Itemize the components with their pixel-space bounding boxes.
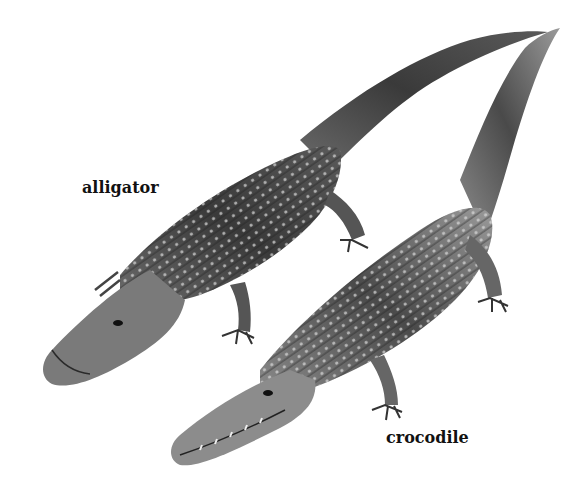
alligator-label: alligator	[82, 180, 159, 196]
alligator-head	[43, 270, 185, 386]
alligator-back-leg	[325, 190, 365, 240]
crocodile-front-leg	[370, 355, 398, 405]
crocodile-eye	[263, 390, 273, 396]
crocodile-label: crocodile	[386, 430, 469, 446]
alligator-front-leg	[230, 282, 251, 332]
reptile-illustration	[0, 0, 571, 496]
alligator-eye	[113, 320, 123, 326]
